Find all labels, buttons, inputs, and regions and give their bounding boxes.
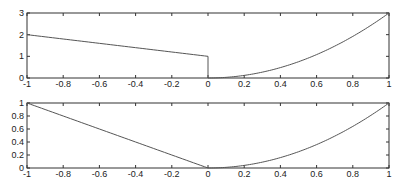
y-tick-label: 1 [19, 98, 24, 108]
x-tick-label: 0.6 [310, 169, 323, 179]
y-tick-label: 0.6 [11, 124, 24, 134]
figure: -1-0.8-0.6-0.4-0.200.20.40.60.810123 -1-… [0, 0, 400, 188]
bottom-subplot: -1-0.8-0.6-0.4-0.200.20.40.60.8100.20.40… [11, 98, 391, 179]
axes-frame [27, 103, 389, 168]
x-tick-label: -0.2 [164, 169, 180, 179]
y-tick-label: 0 [19, 73, 24, 83]
y-tick-label: 1 [19, 51, 24, 61]
x-tick-label: 0.6 [310, 79, 323, 89]
data-line [27, 13, 389, 78]
x-tick-label: 0.2 [238, 169, 251, 179]
x-tick-label: -0.8 [55, 79, 71, 89]
x-tick-label: -0.4 [128, 79, 144, 89]
x-tick-label: 0.8 [347, 79, 360, 89]
x-tick-label: 0 [205, 169, 210, 179]
y-tick-label: 0.8 [11, 111, 24, 121]
x-tick-label: -1 [23, 79, 31, 89]
y-tick-label: 0 [19, 163, 24, 173]
x-tick-label: 1 [386, 169, 391, 179]
y-tick-label: 0.2 [11, 150, 24, 160]
x-tick-label: -0.4 [128, 169, 144, 179]
y-tick-label: 3 [19, 8, 24, 18]
x-tick-label: 0.8 [347, 169, 360, 179]
y-tick-label: 0.4 [11, 137, 24, 147]
data-line [27, 103, 389, 168]
x-tick-label: -0.6 [92, 79, 108, 89]
x-tick-label: 0.2 [238, 79, 251, 89]
y-tick-label: 2 [19, 30, 24, 40]
top-subplot: -1-0.8-0.6-0.4-0.200.20.40.60.810123 [19, 8, 392, 89]
x-tick-label: -0.8 [55, 169, 71, 179]
x-tick-label: -0.2 [164, 79, 180, 89]
x-tick-label: -0.6 [92, 169, 108, 179]
x-tick-label: -1 [23, 169, 31, 179]
x-tick-label: 0.4 [274, 169, 287, 179]
x-tick-label: 1 [386, 79, 391, 89]
x-tick-label: 0.4 [274, 79, 287, 89]
x-tick-label: 0 [205, 79, 210, 89]
